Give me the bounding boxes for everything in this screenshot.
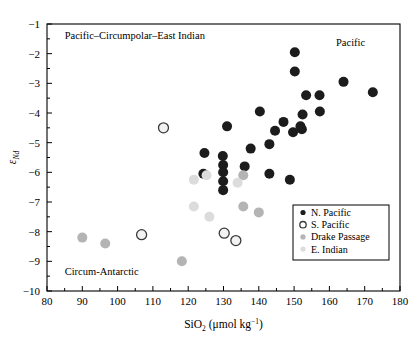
y-axis-tick-label: −6 (28, 166, 40, 178)
x-axis-tick-label: 120 (180, 295, 197, 307)
data-point (204, 212, 214, 222)
legend-marker-s-pacific (300, 222, 306, 228)
data-point (222, 121, 232, 131)
legend-marker-e-indian (300, 247, 305, 252)
data-point (254, 207, 264, 217)
y-axis-tick-label: −8 (28, 226, 40, 238)
data-point (158, 123, 168, 133)
x-axis-tick-label: 170 (356, 295, 373, 307)
data-point (218, 167, 228, 177)
x-axis-tick-label: 110 (145, 295, 162, 307)
data-point (279, 117, 289, 127)
data-point (219, 228, 229, 238)
legend-label-s-pacific: S. Pacific (311, 219, 350, 230)
region-label-circum-antarctic: Circum-Antarctic (65, 266, 139, 277)
data-point (297, 124, 307, 134)
data-point (238, 201, 248, 211)
y-axis-tick-label: −3 (28, 77, 40, 89)
y-axis-tick-label: −2 (28, 48, 40, 60)
x-axis-tick-label: 100 (109, 295, 126, 307)
x-axis-tick-label: 90 (77, 295, 89, 307)
data-point (240, 161, 250, 171)
data-point (298, 109, 308, 119)
data-point (218, 151, 228, 161)
data-point (246, 144, 256, 154)
region-label-pacific: Pacific (336, 37, 365, 48)
data-point (233, 178, 243, 188)
y-axis-tick-label: −1 (28, 18, 40, 30)
x-axis-tick-label: 150 (286, 295, 303, 307)
data-point (315, 107, 325, 117)
eNd-vs-silicate-scatter-chart: 8090100110120130140150160170180−1−2−3−4−… (0, 0, 418, 342)
x-axis-tick-label: 140 (251, 295, 268, 307)
data-point (255, 107, 265, 117)
y-axis-tick-label: −10 (23, 285, 41, 297)
data-point (202, 170, 212, 180)
data-point (77, 233, 87, 243)
data-point (199, 148, 209, 158)
data-point (270, 126, 280, 136)
data-point (100, 239, 110, 249)
data-point (264, 169, 274, 179)
scatter-plot-figure: 8090100110120130140150160170180−1−2−3−4−… (0, 0, 418, 342)
legend-label-drake-passage: Drake Passage (311, 231, 370, 242)
data-point (368, 87, 378, 97)
data-point (339, 77, 349, 87)
data-point (285, 175, 295, 185)
data-point (264, 139, 274, 149)
legend-marker-n-pacific (300, 210, 305, 215)
x-axis-tick-label: 160 (321, 295, 338, 307)
data-point (189, 201, 199, 211)
data-point (137, 230, 147, 240)
x-axis-tick-label: 80 (42, 295, 54, 307)
y-axis-tick-label: −7 (28, 196, 40, 208)
data-point (218, 176, 228, 186)
y-axis-tick-label: −4 (28, 107, 40, 119)
data-point (290, 47, 300, 57)
x-axis-tick-label: 180 (392, 295, 409, 307)
legend-label-e-indian: E. Indian (311, 244, 348, 255)
y-axis-tick-label: −5 (28, 137, 40, 149)
data-point (177, 256, 187, 266)
x-axis-title: SiO2 (μmol kg−1) (184, 317, 263, 333)
region-label-pacific-circumpolar-east-indian: Pacific–Circumpolar–East Indian (65, 30, 206, 41)
legend-marker-drake-passage (300, 234, 305, 239)
data-point (315, 90, 325, 100)
y-axis-tick-label: −9 (28, 255, 40, 267)
data-point (189, 175, 199, 185)
data-point (301, 90, 311, 100)
data-point (288, 127, 298, 137)
data-point (231, 236, 241, 246)
svg-text:εNd: εNd (6, 151, 21, 165)
data-point (218, 185, 228, 195)
x-axis-tick-label: 130 (215, 295, 232, 307)
legend-label-n-pacific: N. Pacific (311, 207, 352, 218)
y-axis-title: εNd (6, 151, 21, 165)
data-point (290, 66, 300, 76)
